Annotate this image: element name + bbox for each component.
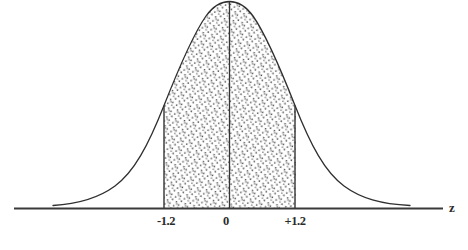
normal-distribution-figure: -1.2 0 +1.2 z <box>0 0 468 250</box>
tick-label-positive-1-2: +1.2 <box>272 215 318 228</box>
distribution-plot <box>0 0 468 250</box>
axis-label-z: z <box>449 201 455 214</box>
shaded-area-region <box>53 2 410 209</box>
tick-label-zero: 0 <box>206 215 246 228</box>
tick-label-negative-1-2: -1.2 <box>143 215 189 228</box>
